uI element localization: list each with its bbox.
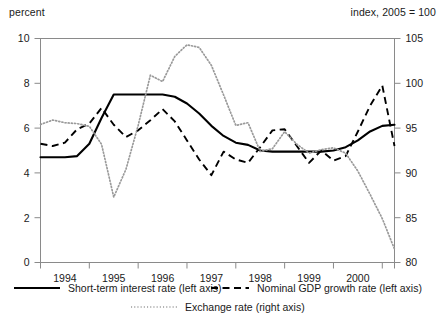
y-tick-label-right: 100	[406, 77, 424, 89]
chart-legend: Short-term interest rate (left axis)Nomi…	[14, 282, 422, 313]
left-axis-caption: percent	[9, 6, 45, 18]
y-tick-label-right: 105	[406, 32, 424, 44]
y-tick-label-left: 0	[24, 256, 30, 268]
y-tick-label-right: 80	[406, 256, 418, 268]
series-line-solid	[41, 95, 395, 158]
line-chart: 0246810 80859095100105 19941995199619971…	[0, 0, 444, 325]
x-axis: 1994199519961997199819992000	[41, 263, 395, 284]
y-tick-label-right: 95	[406, 122, 418, 134]
chart-figure: percent index, 2005 = 100 0246810 808590…	[0, 0, 444, 325]
series-lines	[41, 45, 395, 249]
y-tick-label-left: 10	[18, 32, 30, 44]
series-line-dotted	[41, 45, 395, 249]
left-axis: 0246810	[18, 32, 41, 268]
y-tick-label-left: 8	[24, 77, 30, 89]
right-axis-caption: index, 2005 = 100	[351, 6, 436, 18]
y-tick-label-right: 85	[406, 212, 418, 224]
y-tick-label-left: 6	[24, 122, 30, 134]
legend-label: Short-term interest rate (left axis)	[68, 282, 221, 294]
y-tick-label-left: 2	[24, 212, 30, 224]
right-axis: 80859095100105	[395, 32, 424, 268]
legend-label: Exchange rate (right axis)	[185, 301, 305, 313]
y-tick-label-left: 4	[24, 167, 30, 179]
y-tick-label-right: 90	[406, 167, 418, 179]
legend-label: Nominal GDP growth rate (left axis)	[257, 282, 422, 294]
